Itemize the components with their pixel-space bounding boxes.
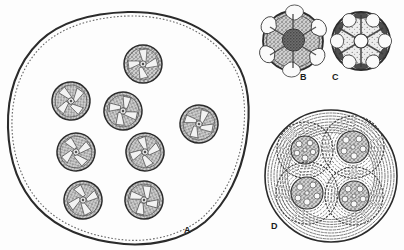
figure-label-c: C [332, 73, 339, 82]
figure-c-vacuole [354, 34, 368, 48]
figure-label-a: A [184, 226, 191, 235]
figure-label-b: B [300, 73, 307, 82]
illustration-plate [0, 0, 404, 250]
cell [124, 45, 162, 83]
figure-label-d: D [271, 222, 278, 231]
